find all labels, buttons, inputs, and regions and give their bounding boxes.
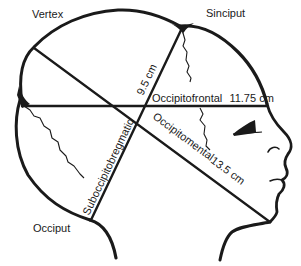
diameter-lines — [22, 28, 270, 222]
label-suboccipitobregmatic: Suboccipitobregmatic — [80, 116, 136, 217]
fetal-skull-diameters-diagram: Vertex Sinciput Occiput Occipitofrontal … — [0, 0, 301, 266]
lambdoid-suture — [24, 106, 84, 178]
neck-back — [90, 220, 116, 258]
occipitofrontal-name: Occipitofrontal — [152, 92, 222, 104]
neck-front — [220, 222, 270, 260]
label-occiput: Occiput — [33, 222, 70, 234]
nostril — [268, 147, 279, 152]
label-occipitomental: Occipitomental — [151, 110, 217, 163]
occipitofrontal-value: 11.75 cm — [229, 92, 273, 104]
mouth — [270, 179, 282, 181]
eye — [233, 120, 262, 136]
label-sinciput: Sinciput — [206, 7, 245, 19]
occiput-curve — [16, 100, 90, 220]
label-vertex: Vertex — [32, 8, 64, 20]
label-occipitofrontal: Occipitofrontal 11.75 cm — [152, 92, 274, 104]
coronal-suture — [183, 33, 191, 82]
face-profile — [267, 104, 291, 222]
